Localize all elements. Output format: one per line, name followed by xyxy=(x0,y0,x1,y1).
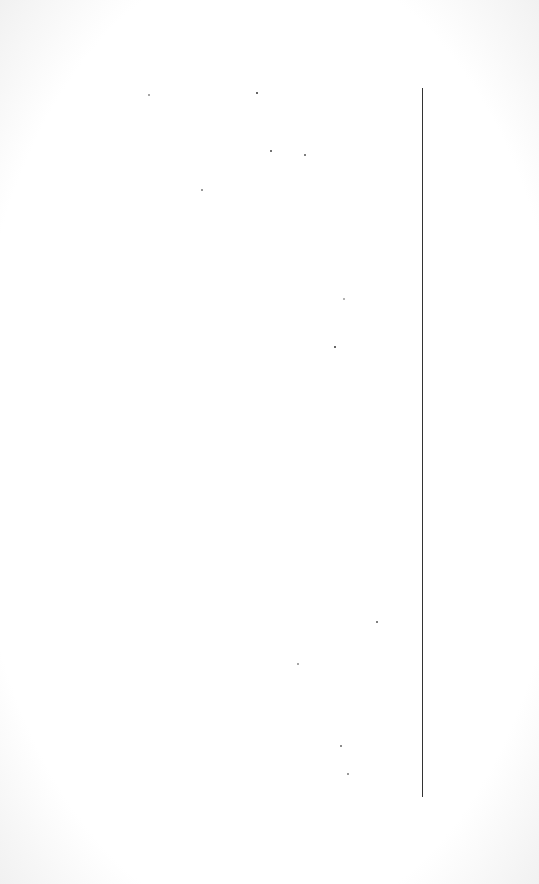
speck xyxy=(304,154,306,156)
vertical-rule xyxy=(422,88,423,797)
speck xyxy=(201,189,203,191)
speck xyxy=(347,773,349,775)
speck xyxy=(334,346,336,348)
blank-page xyxy=(0,0,539,884)
speck xyxy=(148,94,150,96)
speck xyxy=(376,621,378,623)
speck xyxy=(270,150,272,152)
speck xyxy=(343,298,345,300)
speck xyxy=(340,745,342,747)
speck xyxy=(297,663,299,665)
speck xyxy=(256,92,258,94)
